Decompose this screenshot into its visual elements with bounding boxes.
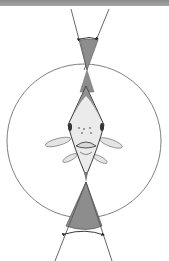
fish-spot — [81, 132, 83, 134]
fish-spot — [89, 127, 91, 129]
fish-left-pelvic-fin — [62, 152, 79, 164]
fish-spot — [83, 128, 85, 130]
fish-right-eye — [100, 123, 104, 131]
fish-body — [68, 86, 104, 176]
bottom-angle-arrow — [65, 231, 104, 235]
fish-spot — [78, 127, 80, 129]
rear-zone — [66, 182, 102, 230]
diagram-canvas — [0, 0, 169, 261]
fish-right-pectoral-fin — [99, 136, 124, 151]
fish-tail — [84, 172, 88, 182]
fish-left-eye — [68, 123, 72, 131]
fish-vision-diagram — [0, 0, 169, 261]
fish-spot — [90, 132, 92, 134]
fish-left-pectoral-fin — [45, 135, 72, 148]
